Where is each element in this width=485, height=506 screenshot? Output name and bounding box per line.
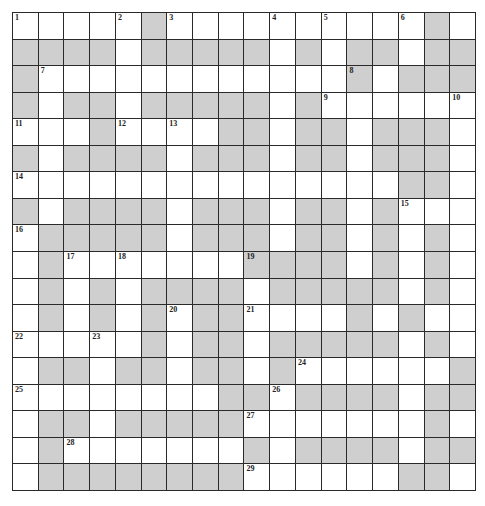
answer-cell[interactable] (347, 464, 372, 490)
answer-cell[interactable]: 28 (64, 438, 89, 464)
answer-cell[interactable] (90, 66, 115, 92)
answer-cell[interactable] (450, 146, 475, 172)
answer-cell[interactable] (13, 464, 38, 490)
answer-cell[interactable] (116, 172, 141, 198)
answer-cell[interactable] (116, 305, 141, 331)
answer-cell[interactable] (322, 464, 347, 490)
answer-cell[interactable] (39, 199, 64, 225)
answer-cell[interactable] (90, 358, 115, 384)
answer-cell[interactable] (296, 411, 321, 437)
answer-cell[interactable]: 24 (296, 358, 321, 384)
answer-cell[interactable] (450, 119, 475, 145)
answer-cell[interactable] (270, 146, 295, 172)
answer-cell[interactable]: 11 (13, 119, 38, 145)
answer-cell[interactable] (347, 225, 372, 251)
answer-cell[interactable] (296, 13, 321, 39)
answer-cell[interactable] (167, 252, 192, 278)
answer-cell[interactable] (116, 438, 141, 464)
answer-cell[interactable]: 27 (244, 411, 269, 437)
answer-cell[interactable] (450, 225, 475, 251)
answer-cell[interactable] (116, 279, 141, 305)
answer-cell[interactable] (450, 464, 475, 490)
answer-cell[interactable] (373, 13, 398, 39)
answer-cell[interactable]: 10 (450, 93, 475, 119)
answer-cell[interactable] (193, 119, 218, 145)
answer-cell[interactable] (142, 66, 167, 92)
answer-cell[interactable] (244, 172, 269, 198)
answer-cell[interactable] (450, 199, 475, 225)
answer-cell[interactable] (373, 464, 398, 490)
answer-cell[interactable] (450, 332, 475, 358)
answer-cell[interactable] (219, 252, 244, 278)
answer-cell[interactable] (39, 13, 64, 39)
answer-cell[interactable] (244, 13, 269, 39)
answer-cell[interactable]: 23 (90, 332, 115, 358)
answer-cell[interactable] (347, 13, 372, 39)
answer-cell[interactable] (39, 385, 64, 411)
answer-cell[interactable] (244, 66, 269, 92)
answer-cell[interactable] (90, 411, 115, 437)
answer-cell[interactable] (373, 411, 398, 437)
answer-cell[interactable] (322, 66, 347, 92)
answer-cell[interactable] (219, 438, 244, 464)
answer-cell[interactable]: 3 (167, 13, 192, 39)
answer-cell[interactable]: 18 (116, 252, 141, 278)
answer-cell[interactable] (270, 305, 295, 331)
answer-cell[interactable] (270, 40, 295, 66)
answer-cell[interactable] (167, 438, 192, 464)
answer-cell[interactable] (219, 13, 244, 39)
answer-cell[interactable] (270, 225, 295, 251)
answer-cell[interactable] (399, 411, 424, 437)
answer-cell[interactable] (347, 146, 372, 172)
answer-cell[interactable] (373, 66, 398, 92)
answer-cell[interactable] (167, 332, 192, 358)
answer-cell[interactable] (39, 119, 64, 145)
answer-cell[interactable] (219, 66, 244, 92)
answer-cell[interactable] (13, 305, 38, 331)
answer-cell[interactable] (90, 252, 115, 278)
answer-cell[interactable]: 25 (13, 385, 38, 411)
answer-cell[interactable] (64, 385, 89, 411)
answer-cell[interactable] (193, 172, 218, 198)
answer-cell[interactable]: 9 (322, 93, 347, 119)
answer-cell[interactable] (450, 13, 475, 39)
answer-cell[interactable] (167, 66, 192, 92)
answer-cell[interactable]: 14 (13, 172, 38, 198)
answer-cell[interactable] (13, 438, 38, 464)
answer-cell[interactable] (373, 305, 398, 331)
answer-cell[interactable] (193, 438, 218, 464)
answer-cell[interactable] (39, 146, 64, 172)
answer-cell[interactable] (450, 411, 475, 437)
answer-cell[interactable] (296, 66, 321, 92)
answer-cell[interactable] (399, 252, 424, 278)
answer-cell[interactable] (347, 93, 372, 119)
answer-cell[interactable] (39, 172, 64, 198)
answer-cell[interactable] (270, 199, 295, 225)
answer-cell[interactable] (425, 305, 450, 331)
answer-cell[interactable] (450, 252, 475, 278)
answer-cell[interactable]: 7 (39, 66, 64, 92)
answer-cell[interactable] (450, 279, 475, 305)
answer-cell[interactable] (270, 66, 295, 92)
answer-cell[interactable] (399, 358, 424, 384)
answer-cell[interactable] (64, 13, 89, 39)
answer-cell[interactable] (116, 332, 141, 358)
answer-cell[interactable] (90, 172, 115, 198)
answer-cell[interactable] (425, 93, 450, 119)
answer-cell[interactable] (270, 438, 295, 464)
answer-cell[interactable] (116, 385, 141, 411)
answer-cell[interactable] (90, 385, 115, 411)
answer-cell[interactable] (399, 93, 424, 119)
answer-cell[interactable] (142, 385, 167, 411)
answer-cell[interactable] (193, 385, 218, 411)
answer-cell[interactable]: 29 (244, 464, 269, 490)
answer-cell[interactable]: 21 (244, 305, 269, 331)
answer-cell[interactable] (64, 279, 89, 305)
answer-cell[interactable] (193, 252, 218, 278)
answer-cell[interactable] (399, 279, 424, 305)
answer-cell[interactable] (296, 464, 321, 490)
answer-cell[interactable]: 15 (399, 199, 424, 225)
answer-cell[interactable] (193, 66, 218, 92)
answer-cell[interactable] (39, 93, 64, 119)
answer-cell[interactable] (450, 305, 475, 331)
